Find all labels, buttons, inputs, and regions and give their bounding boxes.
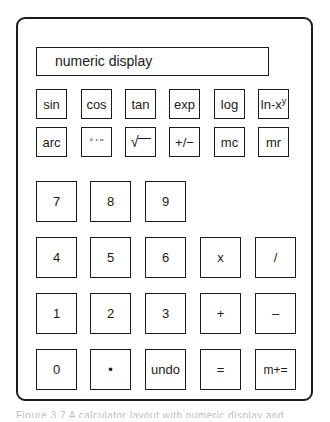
numeric-display: numeric display: [36, 47, 269, 76]
key-label: 0: [53, 362, 60, 377]
key-label: exp: [174, 97, 195, 112]
ln-x-power-y-button[interactable]: ln-xy: [258, 89, 289, 119]
sin-button[interactable]: sin: [36, 89, 67, 119]
tan-button[interactable]: tan: [125, 89, 156, 119]
digit-3-button[interactable]: 3: [145, 293, 186, 334]
key-label: ln-xy: [261, 96, 286, 112]
key-label: arc: [42, 135, 60, 150]
undo-button[interactable]: undo: [145, 349, 186, 390]
key-label: =: [217, 362, 225, 377]
key-label: sin: [43, 97, 60, 112]
square-root-button[interactable]: √: [125, 127, 156, 157]
key-label: 6: [162, 250, 169, 265]
key-label: •: [108, 362, 113, 377]
key-label: mc: [221, 135, 238, 150]
key-label: log: [221, 97, 238, 112]
key-label: /: [274, 250, 278, 265]
figure-caption: Figure 3.7 A calculator layout with nume…: [16, 410, 316, 418]
key-label-superscript: y: [282, 96, 287, 106]
key-label: 8: [107, 194, 114, 209]
key-label: 4: [53, 250, 60, 265]
memory-clear-button[interactable]: mc: [214, 127, 245, 157]
key-label: 9: [162, 194, 169, 209]
key-label: 7: [53, 194, 60, 209]
digit-0-button[interactable]: 0: [36, 349, 77, 390]
key-label: x: [217, 250, 224, 265]
equals-button[interactable]: =: [200, 349, 241, 390]
degrees-minutes-seconds-button[interactable]: ° ' '': [81, 127, 112, 157]
key-label: +: [217, 306, 225, 321]
key-label: –: [272, 306, 279, 321]
cos-button[interactable]: cos: [81, 89, 112, 119]
log-button[interactable]: log: [214, 89, 245, 119]
digit-4-button[interactable]: 4: [36, 237, 77, 278]
key-label: +/−: [175, 135, 194, 150]
key-label: 3: [162, 306, 169, 321]
multiply-button[interactable]: x: [200, 237, 241, 278]
key-label: m+=: [263, 363, 287, 377]
key-label-base: ln-x: [261, 97, 282, 112]
key-label: mr: [266, 135, 281, 150]
decimal-point-button[interactable]: •: [90, 349, 131, 390]
add-button[interactable]: +: [200, 293, 241, 334]
digit-9-button[interactable]: 9: [145, 181, 186, 222]
digit-8-button[interactable]: 8: [90, 181, 131, 222]
digit-2-button[interactable]: 2: [90, 293, 131, 334]
display-label: numeric display: [55, 53, 152, 69]
exp-button[interactable]: exp: [169, 89, 200, 119]
key-label: 5: [107, 250, 114, 265]
digit-5-button[interactable]: 5: [90, 237, 131, 278]
digit-1-button[interactable]: 1: [36, 293, 77, 334]
memory-add-equals-button[interactable]: m+=: [255, 349, 296, 390]
digit-7-button[interactable]: 7: [36, 181, 77, 222]
arc-button[interactable]: arc: [36, 127, 67, 157]
key-label: undo: [151, 362, 180, 377]
subtract-button[interactable]: –: [255, 293, 296, 334]
digit-6-button[interactable]: 6: [145, 237, 186, 278]
key-label: cos: [86, 97, 106, 112]
plus-minus-button[interactable]: +/−: [169, 127, 200, 157]
key-label: ° ' '': [90, 137, 104, 147]
key-label: 2: [107, 306, 114, 321]
square-root-icon: √: [130, 133, 150, 151]
memory-recall-button[interactable]: mr: [258, 127, 289, 157]
key-label: 1: [53, 306, 60, 321]
key-label: tan: [131, 97, 149, 112]
divide-button[interactable]: /: [255, 237, 296, 278]
